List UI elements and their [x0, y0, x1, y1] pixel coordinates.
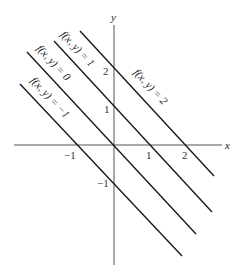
x-axis-label: x	[224, 139, 230, 151]
y-tick-label: −1	[97, 177, 109, 189]
y-tick-label: 2	[103, 65, 109, 77]
x-tick-label: −1	[64, 149, 76, 161]
level-curves-diagram: x y −1 1 2 2 1 −1 −1 f(x, y) = 2 f(x, y)…	[0, 0, 243, 272]
level-label-c2: f(x, y) = 2	[131, 66, 171, 107]
level-curve-c0	[27, 52, 196, 234]
x-tick-label: 2	[182, 149, 188, 161]
y-tick-label: 1	[104, 103, 110, 115]
x-tick-label: 1	[146, 149, 152, 161]
level-curve-c1	[54, 41, 212, 212]
y-axis-label: y	[110, 11, 116, 23]
level-curve-cm1	[20, 84, 182, 256]
